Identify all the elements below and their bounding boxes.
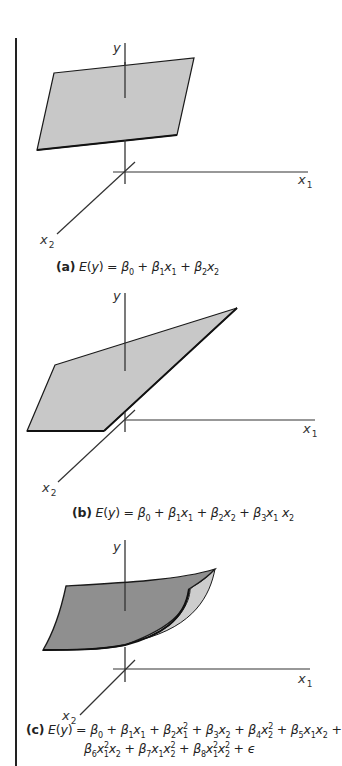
panel-a-y-label: y <box>112 40 121 55</box>
panel-b: y x1 x2 <box>27 288 317 498</box>
panel-b-caption: (b) E(y) = β0 + β1x1 + β2x2 + β3x1 x2 <box>72 505 294 523</box>
panel-a-x2-axis <box>57 162 135 234</box>
panel-b-y-label: y <box>112 288 121 303</box>
panel-c-x2-axis <box>80 660 135 715</box>
panel-b-caption-tag: (b) <box>72 505 92 520</box>
panel-b-x2-label: x2 <box>41 480 56 498</box>
panel-c-caption-tag: (c) <box>26 722 44 737</box>
panel-a-x1-label: x1 <box>297 172 312 190</box>
panel-c-x1-label: x1 <box>297 671 312 689</box>
axis-label-subscript: 1 <box>312 429 318 439</box>
panel-a: y x1 x2 <box>37 40 312 250</box>
axis-label-subscript: 2 <box>49 240 55 250</box>
panel-c-caption-line2: β6x21x2 + β7x1x22 + β8x21x22 + ϵ <box>84 741 255 759</box>
panel-b-x1-label: x1 <box>302 421 317 439</box>
panel-c: y x1 x2 <box>43 539 312 726</box>
panel-a-x2-label: x2 <box>39 232 54 250</box>
panel-c-caption-line1: (c) E(y) = β0 + β1x1 + β2x21 + β3x2 + β4… <box>26 722 342 740</box>
axis-label-subscript: 1 <box>307 679 313 689</box>
panel-a-caption-tag: (a) <box>56 259 75 274</box>
panel-c-y-label: y <box>112 539 121 554</box>
panel-a-caption: (a) E(y) = β0 + β1x1 + β2x2 <box>56 259 219 277</box>
axis-label-subscript: 1 <box>307 180 313 190</box>
axis-label-subscript: 2 <box>51 488 57 498</box>
